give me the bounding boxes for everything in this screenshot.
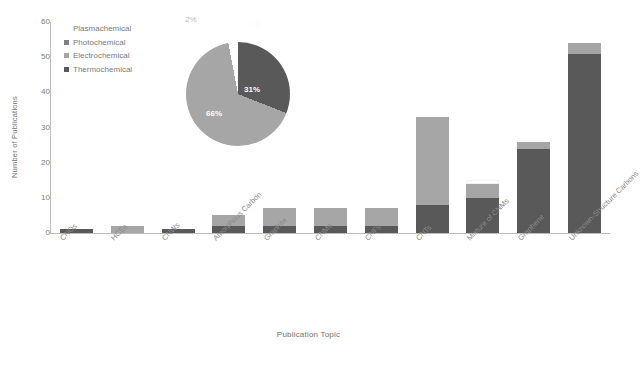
bar-segment-electrochemical: [466, 184, 499, 198]
y-tick-label: 60: [10, 18, 50, 26]
legend-item-plasmachemical: Plasmachemical: [64, 22, 132, 36]
legend-swatch-icon: [64, 26, 69, 31]
legend-item-label: Thermochemical: [73, 65, 132, 74]
pie-slice-label-thermochemical: 31%: [244, 85, 260, 94]
legend-item-label: Plasmachemical: [73, 24, 131, 33]
bar-segment-electrochemical: [568, 43, 601, 54]
legend-item-label: Electrochemical: [73, 51, 129, 60]
legend-swatch-icon: [64, 40, 69, 45]
legend-swatch-icon: [64, 67, 69, 72]
bar-segment-electrochemical: [365, 208, 398, 226]
pie-slice-label-photochemical: 2%: [185, 15, 197, 24]
legend-swatch-icon: [64, 53, 69, 58]
pie-slice-label-plasmachemical: 1%: [249, 20, 261, 29]
bar-unknown-structure-carbons: [568, 43, 601, 233]
legend-item-label: Photochemical: [73, 38, 125, 47]
y-tick-label: 50: [10, 53, 50, 61]
y-axis-ticks: 6050403020100: [5, 0, 50, 367]
plot-area: [51, 22, 610, 233]
pie-slice-label-electrochemical: 66%: [206, 109, 222, 118]
legend: PlasmachemicalPhotochemicalElectrochemic…: [64, 22, 132, 76]
legend-item-electrochemical: Electrochemical: [64, 49, 132, 63]
legend-item-photochemical: Photochemical: [64, 36, 132, 50]
y-tick-label: 40: [10, 88, 50, 96]
y-tick-label: 20: [10, 159, 50, 167]
y-tick-label: 0: [10, 229, 50, 237]
bar-segment-electrochemical: [416, 117, 449, 205]
y-tick-label: 10: [10, 194, 50, 202]
pie-chart-inset: 31% 66% 2% 1%: [186, 42, 290, 146]
y-tick-label: 30: [10, 124, 50, 132]
x-axis-title: Publication Topic: [0, 330, 617, 339]
bar-segment-electrochemical: [517, 142, 550, 149]
pie-circle: [186, 42, 290, 146]
legend-item-thermochemical: Thermochemical: [64, 63, 132, 77]
bar-cnts: [416, 117, 449, 233]
